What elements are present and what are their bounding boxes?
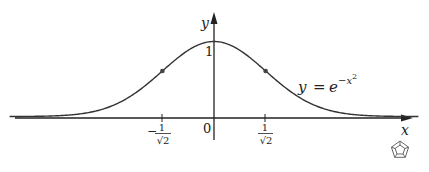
y-axis-label: y <box>200 15 210 31</box>
tick-neg-den: √2 <box>157 135 170 146</box>
y-tick-one: 1 <box>205 44 213 59</box>
gaussian-figure: y x 1 0 − 1 √2 1 √2 y = e −x 2 <box>0 0 429 172</box>
x-axis-label: x <box>401 122 409 138</box>
inflection-point-right <box>263 69 268 74</box>
equation-label: y = e −x 2 <box>297 72 357 96</box>
equation-lhs: y <box>297 78 307 96</box>
y-axis-arrow-icon <box>211 12 218 24</box>
x-axis-arrow-icon <box>401 115 413 122</box>
tick-neg-sign: − <box>147 124 157 138</box>
equation-exponent-power: 2 <box>352 72 357 81</box>
equation-equals: = <box>313 78 326 96</box>
equation-base: e <box>329 78 338 96</box>
tick-neg-num: 1 <box>159 122 165 133</box>
tick-pos-den: √2 <box>260 135 273 146</box>
origin-label: 0 <box>203 121 211 136</box>
tick-pos-num: 1 <box>262 122 268 133</box>
equation-exponent: −x <box>338 75 352 86</box>
dodecahedron-icon <box>391 141 408 157</box>
inflection-point-left <box>160 69 165 74</box>
